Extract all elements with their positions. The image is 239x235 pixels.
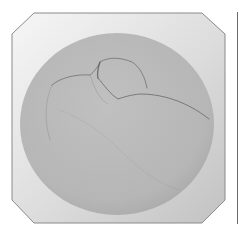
circular-disc	[20, 33, 214, 215]
right-edge-line	[237, 12, 238, 224]
image-canvas: Grayscale image of an octagonal tile wit…	[0, 0, 239, 235]
octagon-tile-graphic	[0, 0, 239, 235]
